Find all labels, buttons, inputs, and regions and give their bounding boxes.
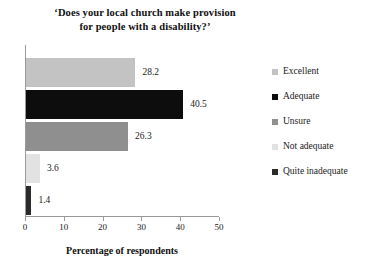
bar-value-label: 40.5 — [190, 99, 207, 109]
x-axis-tick-label: 10 — [59, 222, 68, 232]
x-axis-title: Percentage of respondents — [25, 245, 219, 256]
legend-item-label: Unsure — [283, 117, 310, 127]
x-axis-tick — [25, 217, 26, 221]
legend-item[interactable]: Not adequate — [272, 141, 333, 153]
legend-item-label: Quite inadequate — [283, 167, 348, 177]
bar — [26, 122, 128, 151]
bar — [26, 186, 31, 215]
legend-item-label: Adequate — [283, 92, 319, 102]
x-axis-tick — [64, 217, 65, 221]
bar-value-label: 28.2 — [142, 67, 159, 77]
x-axis-tick-label: 30 — [137, 222, 146, 232]
x-axis-tick-label: 20 — [98, 222, 107, 232]
x-axis-tick-label: 50 — [215, 222, 224, 232]
legend-swatch-icon — [272, 69, 278, 75]
legend-swatch-icon — [272, 144, 278, 150]
legend-item-label: Excellent — [283, 67, 319, 77]
legend-item[interactable]: Adequate — [272, 91, 319, 103]
x-axis-line — [25, 216, 219, 217]
x-axis-tick — [103, 217, 104, 221]
bar-value-label: 1.4 — [38, 195, 50, 205]
legend-swatch-icon — [272, 169, 278, 175]
legend-swatch-icon — [272, 94, 278, 100]
bar — [26, 58, 135, 87]
bar — [26, 90, 183, 119]
bar-value-label: 3.6 — [47, 163, 59, 173]
legend-item-label: Not adequate — [283, 142, 333, 152]
bar — [26, 154, 40, 183]
legend-item[interactable]: Unsure — [272, 116, 310, 128]
plot-area: 01020304050 28.240.526.33.61.4 — [25, 45, 219, 217]
x-axis-tick-label: 40 — [176, 222, 185, 232]
x-axis-tick — [180, 217, 181, 221]
legend-swatch-icon — [272, 119, 278, 125]
chart-title: ‘Does your local church make provision f… — [40, 6, 250, 33]
bar-chart-figure: ‘Does your local church make provision f… — [0, 0, 380, 277]
bar-value-label: 26.3 — [135, 131, 152, 141]
legend-item[interactable]: Quite inadequate — [272, 166, 348, 178]
x-axis-tick — [219, 217, 220, 221]
x-axis-tick-label: 0 — [23, 222, 28, 232]
legend-item[interactable]: Excellent — [272, 66, 319, 78]
x-axis-tick — [141, 217, 142, 221]
